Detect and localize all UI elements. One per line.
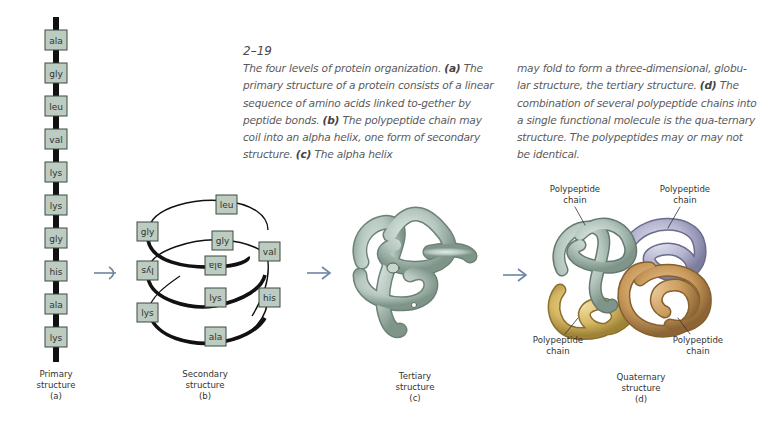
label-line: structure [165,380,245,391]
label-line: structure [375,382,455,393]
label-line: Quaternary [601,372,681,383]
residue-box: lys [137,303,158,322]
chain-label-line: Polypeptide [535,184,615,195]
residue-box: ala [205,256,226,275]
svg-text:lys: lys [50,333,63,343]
svg-text:val: val [263,247,276,257]
svg-text:gly: gly [49,69,63,79]
chain-label-bottom-left: Polypeptide chain [518,335,598,357]
label-line: (a) [16,391,96,402]
protein-structure-diagram: ala gly leu val lys lys gly his ala lys … [0,0,771,424]
residue-box: gly [45,228,67,248]
chain-label-bottom-right: Polypeptide chain [658,335,738,357]
residue-box: gly [45,63,67,83]
chain-label-line: Polypeptide [518,335,598,346]
svg-text:lys: lys [50,201,63,211]
chain-label-line: Polypeptide [645,184,725,195]
residue-box: leu [45,96,67,116]
residue-box: lys [45,195,67,215]
arrow-icon [94,267,116,279]
svg-text:his: his [50,267,63,277]
label-line: (c) [375,393,455,404]
chain-yellow [554,290,625,333]
quaternary-structure-label: Quaternary structure (d) [601,372,681,405]
svg-text:lys: lys [141,266,154,276]
residue-box: ala [45,294,67,314]
residue-box: gly [137,222,158,241]
chain-label-line: Polypeptide [658,335,738,346]
label-line: Primary [16,369,96,380]
residue-box: lys [137,261,158,280]
residue-box: lys [45,327,67,347]
tertiary-structure-label: Tertiary structure (c) [375,371,455,404]
chain-label-top-right: Polypeptide chain [645,184,725,206]
primary-structure: ala gly leu val lys lys gly his ala lys [45,17,67,362]
svg-text:ala: ala [209,261,223,271]
primary-structure-label: Primary structure (a) [16,369,96,402]
svg-text:lys: lys [209,293,222,303]
arrow-icon [503,269,526,281]
svg-text:lys: lys [141,308,154,318]
chain-label-top-left: Polypeptide chain [535,184,615,206]
residue-box: val [259,242,280,261]
svg-text:val: val [49,135,62,145]
chain-label-line: chain [658,346,738,357]
chain-label-line: chain [535,195,615,206]
svg-text:gly: gly [49,234,63,244]
chain-label-line: chain [645,195,725,206]
residue-box: ala [45,30,67,50]
residue-box: gly [212,231,233,250]
svg-text:leu: leu [220,200,234,210]
quaternary-structure [554,207,705,334]
residue-box: ala [205,327,226,346]
label-line: structure [601,383,681,394]
label-line: Secondary [165,369,245,380]
arrow-icon [307,267,330,279]
tertiary-structure [360,214,470,331]
svg-text:leu: leu [49,102,63,112]
label-line: (b) [165,391,245,402]
label-line: Tertiary [375,371,455,382]
residue-box: leu [216,195,237,214]
svg-text:ala: ala [49,300,63,310]
residue-box: lys [205,288,226,307]
residue-box: val [45,129,67,149]
svg-text:ala: ala [209,332,223,342]
secondary-structure-label: Secondary structure (b) [165,369,245,402]
residue-box: lys [45,162,67,182]
svg-text:gly: gly [216,236,230,246]
svg-text:ala: ala [49,36,63,46]
label-line: structure [16,380,96,391]
chain-label-line: chain [518,346,598,357]
svg-text:his: his [263,293,276,303]
label-line: (d) [601,394,681,405]
residue-box: his [45,261,67,281]
residue-box: his [259,288,280,307]
svg-text:gly: gly [141,227,155,237]
svg-text:lys: lys [50,168,63,178]
secondary-structure: leu gly gly val ala lys lys his lys ala [137,195,280,346]
